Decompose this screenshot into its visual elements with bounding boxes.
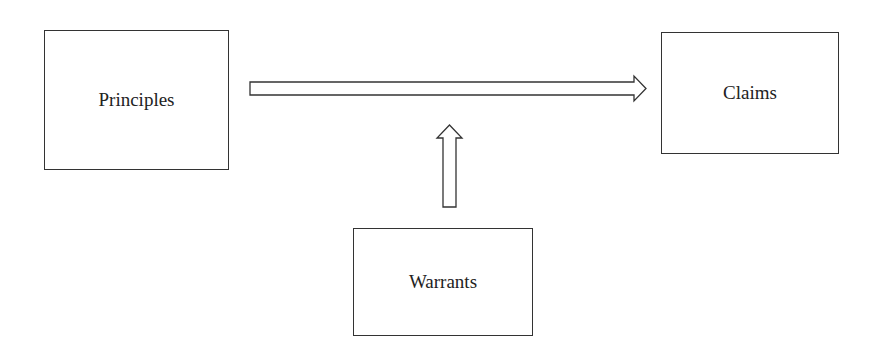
claims-label: Claims [723,82,777,104]
warrants-box: Warrants [353,228,533,336]
arrow-warrants-up [437,125,462,207]
principles-label: Principles [99,89,175,111]
claims-box: Claims [661,32,839,154]
arrow-principles-to-claims [250,76,646,101]
principles-box: Principles [44,30,229,170]
warrants-label: Warrants [409,271,477,293]
